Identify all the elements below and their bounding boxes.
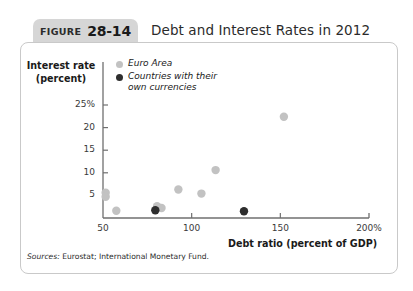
y-axis-tick-label: 10 [59, 167, 95, 177]
figure-container: FIGURE 28-14 Debt and Interest Rates in … [0, 0, 413, 291]
chart-legend: Euro Area Countries with their own curre… [116, 58, 217, 95]
figure-tab: FIGURE 28-14 [33, 19, 138, 43]
y-axis-title: Interest rate (percent) [22, 60, 100, 85]
x-axis-title: Debt ratio (percent of GDP) [228, 238, 377, 249]
source-text: Eurostat; International Monetary Fund. [62, 252, 209, 261]
legend-label-own-currencies: Countries with their own currencies [128, 71, 217, 94]
y-axis-tick-label: 25% [59, 99, 95, 109]
y-axis-tick-label: 5 [59, 189, 95, 199]
y-axis-tick-label: 20 [59, 122, 95, 132]
x-axis-tick-label: 150 [272, 223, 289, 233]
figure-title: Debt and Interest Rates in 2012 [151, 22, 370, 38]
legend-dot-own-currencies-icon [116, 74, 123, 81]
x-axis-tick-label: 200% [356, 223, 382, 233]
legend-dot-euro-area-icon [116, 61, 123, 68]
legend-item-euro-area: Euro Area [116, 58, 217, 70]
y-axis-tick-label: 15 [59, 144, 95, 154]
source-note: Sources: Eurostat; International Monetar… [27, 252, 209, 261]
legend-item-own-currencies: Countries with their own currencies [116, 71, 217, 94]
source-lead: Sources: [27, 252, 60, 261]
legend-label-euro-area: Euro Area [128, 58, 172, 70]
x-axis-tick-label: 50 [97, 223, 108, 233]
figure-tab-number: 28-14 [87, 23, 131, 39]
figure-tab-word: FIGURE [40, 26, 81, 37]
x-axis-tick-label: 100 [183, 223, 200, 233]
